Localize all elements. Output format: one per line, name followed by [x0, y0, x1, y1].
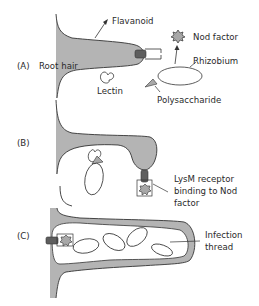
flavanoid-arrow	[95, 23, 105, 38]
label-lysm-1: LysM receptor	[174, 174, 234, 184]
root-hair-cell-b	[56, 100, 157, 174]
flavanoid-arrowhead-icon	[103, 19, 108, 25]
label-lectin: Lectin	[97, 86, 123, 96]
panel-c: (C) Infection thread	[17, 208, 242, 298]
rhizobium-icon-a	[158, 67, 202, 85]
panel-b: (B) LysM receptor binding to Nod factor	[17, 100, 237, 208]
label-infection-2: thread	[205, 242, 233, 252]
panel-label-b: (B)	[17, 138, 30, 148]
panel-a: (A) Root hair Flavanoid Nod factor Rhizo…	[17, 14, 239, 105]
label-infection-1: Infection	[205, 230, 242, 240]
label-rhizobium: Rhizobium	[193, 56, 238, 66]
label-nod-factor: Nod factor	[193, 32, 239, 42]
nod-factor-icon-b	[139, 184, 151, 195]
nod-factor-icon-a	[171, 30, 185, 43]
polysaccharide-leader	[155, 86, 160, 92]
nod-factor-arrowhead-icon	[175, 45, 180, 50]
lectin-icon	[100, 72, 113, 83]
lysm-receptor-a	[135, 50, 146, 58]
label-flavanoid: Flavanoid	[112, 16, 154, 26]
polysaccharide-icon	[145, 79, 157, 87]
panel-label-c: (C)	[17, 231, 30, 241]
label-lysm-2: binding to Nod	[174, 186, 237, 196]
lysm-receptor-c	[46, 237, 58, 244]
label-root-hair: Root hair	[39, 61, 78, 71]
label-polysaccharide: Polysaccharide	[157, 95, 221, 105]
nod-factor-arrow	[175, 48, 177, 64]
nodulation-diagram: (A) Root hair Flavanoid Nod factor Rhizo…	[0, 0, 259, 306]
lysm-leader	[153, 184, 168, 192]
label-lysm-3: factor	[174, 198, 200, 208]
rhizobium-icon-b	[82, 162, 105, 197]
root-hair-lower-b	[60, 186, 72, 206]
panel-label-a: (A)	[17, 61, 30, 71]
receptor-bracket-a	[145, 49, 161, 59]
